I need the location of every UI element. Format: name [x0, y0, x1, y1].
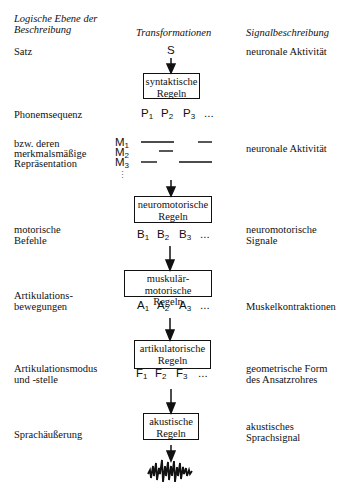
feature-bars [141, 142, 212, 162]
arrow-down-icon [167, 180, 175, 196]
arrow-down-icon [167, 389, 175, 413]
arrow-down-icon [166, 246, 174, 270]
arrow-down-icon [167, 445, 175, 461]
arrow-down-icon [166, 318, 174, 340]
speech-waveform [148, 460, 192, 482]
arrow-down-icon [167, 58, 175, 73]
diagram-graphics [0, 0, 350, 488]
